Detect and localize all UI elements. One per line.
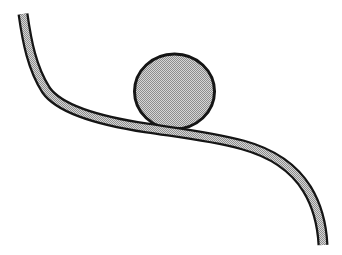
figure-canvas <box>0 0 342 255</box>
ball <box>135 54 215 129</box>
ball-on-slope-diagram <box>0 0 342 255</box>
slope-fill <box>23 14 323 245</box>
